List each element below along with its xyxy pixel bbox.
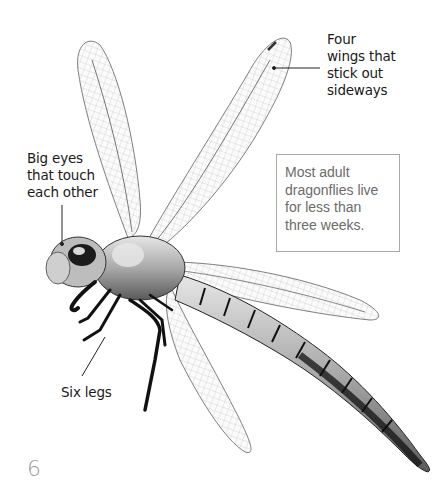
fact-box: Most adult dragonflies live for less tha… bbox=[276, 154, 400, 252]
label-eyes: Big eyes that touch each other bbox=[27, 150, 98, 201]
fact-text: Most adult dragonflies live for less tha… bbox=[285, 164, 399, 234]
label-wings: Four wings that stick out sideways bbox=[327, 31, 396, 99]
wing-upper-right bbox=[148, 38, 291, 248]
dragonfly-head bbox=[46, 237, 106, 287]
page-number: 6 bbox=[27, 456, 41, 481]
wing-upper-left bbox=[78, 41, 141, 238]
book-page: Four wings that stick out sideways Big e… bbox=[0, 0, 442, 496]
label-legs: Six legs bbox=[61, 384, 112, 401]
